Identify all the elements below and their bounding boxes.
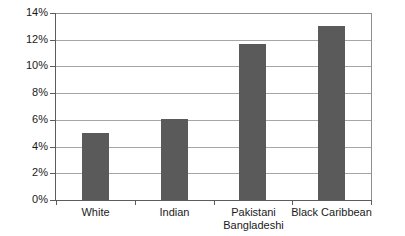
x-axis-tick [135,200,136,205]
y-axis-tick-label: 2% [4,167,48,178]
y-axis-tick [50,147,55,148]
x-axis-tick [56,200,57,205]
y-axis-tick [50,13,55,14]
y-axis-tick [50,200,55,201]
y-axis-tick-label: 4% [4,141,48,152]
bar-chart: 0%2%4%6%8%10%12%14% WhiteIndianPakistani… [0,0,405,236]
bar [239,44,266,200]
plot-right-border [371,13,372,201]
y-axis-tick [50,40,55,41]
bar [318,26,345,200]
x-axis-tick [371,200,372,205]
x-axis-tick [214,200,215,205]
y-axis-tick-label: 8% [4,87,48,98]
y-axis-tick [50,93,55,94]
y-axis-tick [50,66,55,67]
y-axis-tick-label: 12% [4,34,48,45]
bar [82,133,109,200]
y-axis-tick-label: 10% [4,60,48,71]
y-axis-tick-label: 6% [4,114,48,125]
x-axis-tick [292,200,293,205]
y-axis-tick-label: 14% [4,7,48,18]
plot-area [56,13,371,200]
bar [161,119,188,200]
y-axis-tick [50,173,55,174]
x-axis-category-label: Black Caribbean [282,206,381,219]
gridline [56,13,371,14]
y-axis-line [55,13,56,201]
y-axis-tick-label: 0% [4,194,48,205]
y-axis-tick [50,120,55,121]
